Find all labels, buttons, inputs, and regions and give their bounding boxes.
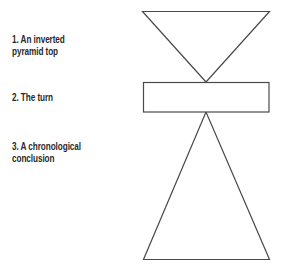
turn-rectangle-shape [144,83,270,113]
bottom-triangle-shape [144,112,270,260]
inverted-triangle-shape [143,12,270,83]
hourglass-structure-diagram [0,0,283,267]
